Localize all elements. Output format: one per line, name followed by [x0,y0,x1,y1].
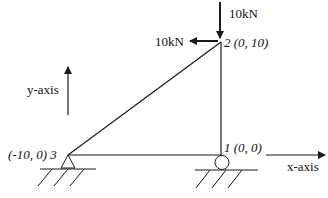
truss-diagram-svg: 10kN 10kN 2 (0, 10) 1 (0, 0) (-10, 0) 3 … [0,0,328,198]
pin-triangle-icon [61,155,75,168]
pin-ground-hatch-icon [38,169,84,186]
node-2-label: 2 (0, 10) [224,35,268,50]
roller-ground-hatch-icon [196,170,242,188]
roller-circle-icon [215,156,229,170]
x-axis-label: x-axis [287,159,319,174]
y-axis-label: y-axis [27,82,59,97]
loads [190,2,220,41]
node-1-label: 1 (0, 0) [224,140,262,155]
truss-diagram: 10kN 10kN 2 (0, 10) 1 (0, 0) (-10, 0) 3 … [0,0,328,198]
node-3-label: (-10, 0) 3 [8,147,57,162]
vertical-load-label: 10kN [229,6,259,21]
truss-members [68,42,221,155]
roller-support [195,156,258,189]
horizontal-load-label: 10kN [155,34,185,49]
member-2-3 [68,42,221,155]
axes [68,67,325,155]
